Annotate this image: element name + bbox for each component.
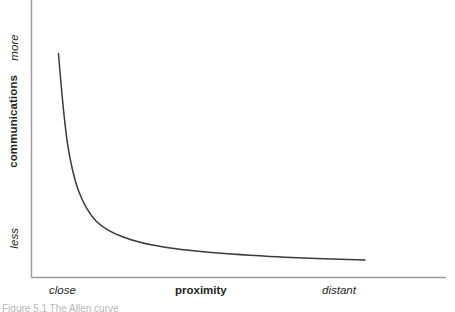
x-axis-right-label: distant <box>322 285 356 297</box>
y-axis-title: communications <box>0 112 64 192</box>
y-axis-bottom-label: less <box>0 226 32 254</box>
y-axis-bottom-label-text: less <box>9 215 21 249</box>
y-axis-top-label: more <box>0 38 32 70</box>
figure-caption: Figure 5.1 The Allen curve <box>2 303 119 312</box>
y-axis-title-text: communications <box>8 68 20 168</box>
y-axis-top-label-text: more <box>9 27 21 61</box>
x-axis-left-label: close <box>49 285 76 297</box>
figure-container: more communications less close proximity… <box>0 0 455 312</box>
communications-decay-curve <box>58 54 365 260</box>
chart-canvas <box>0 0 455 312</box>
x-axis-title: proximity <box>175 285 227 297</box>
